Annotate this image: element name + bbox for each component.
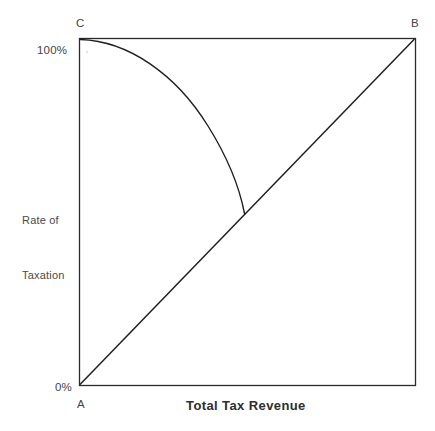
plot-canvas [0, 0, 435, 431]
laffer-curve [81, 40, 245, 214]
corner-label-c: C [76, 15, 85, 32]
y-tick-label-0: 0% [55, 379, 72, 396]
diagonal-reference-line [80, 39, 415, 385]
y-axis-title-line-1: Rate of [22, 213, 65, 229]
y-axis-title: Rate of Taxation [22, 181, 65, 323]
laffer-curve-figure: C B A 100% 0% Rate of Taxation Total Tax… [0, 0, 435, 431]
y-tick-label-100: 100% [37, 42, 67, 59]
x-axis-title: Total Tax Revenue [186, 397, 306, 416]
corner-label-a: A [77, 396, 85, 413]
corner-label-b: B [411, 15, 419, 32]
scan-artifact-speck [86, 51, 88, 53]
y-axis-title-line-2: Taxation [22, 268, 65, 284]
